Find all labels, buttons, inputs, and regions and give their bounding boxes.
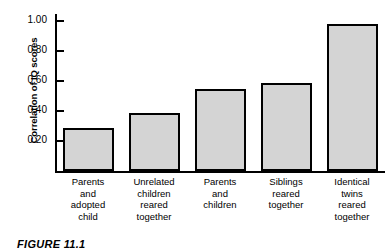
y-axis-tick-label: 0.80 [13,45,47,55]
category-label-line: Parents [187,176,253,188]
category-label-line: reared [319,199,385,211]
y-axis-tick [57,20,64,22]
figure-container: Correlation of IQ scores 0.200.400.600.8… [0,0,391,249]
category-label-line: together [253,199,319,211]
y-axis-tick [57,110,64,112]
bar-series [55,14,385,173]
bar [327,24,378,171]
y-axis-tick-label: 0.40 [13,105,47,115]
category-label-line: twins [319,188,385,200]
y-axis-tick [57,50,64,52]
y-axis-tick [57,140,64,142]
category-label-line: and [55,188,121,200]
x-axis-category-label: Parentsandadoptedchild [55,176,121,222]
plot-area [55,14,385,173]
category-label-line: Unrelated [121,176,187,188]
category-label-line: together [319,211,385,223]
y-axis-title: Correlation of IQ scores [28,11,39,171]
x-axis-category-label: Unrelatedchildrenrearedtogether [121,176,187,222]
category-label-line: Identical [319,176,385,188]
category-label-line: reared [121,199,187,211]
y-axis-tick [57,80,64,82]
x-axis-category-label: Siblingsrearedtogether [253,176,319,211]
bar [261,83,312,172]
category-label-line: adopted [55,199,121,211]
bar [129,113,180,172]
x-axis-category-label: Parentsandchildren [187,176,253,211]
category-label-line: Siblings [253,176,319,188]
category-label-line: children [187,199,253,211]
y-axis-tick-label: 1.00 [13,15,47,25]
x-axis-category-labels: ParentsandadoptedchildUnrelatedchildrenr… [55,176,385,236]
category-label-line: Parents [55,176,121,188]
category-label-line: children [121,188,187,200]
x-axis-category-label: Identicaltwinsrearedtogether [319,176,385,222]
category-label-line: together [121,211,187,223]
category-label-line: and [187,188,253,200]
y-axis-tick-label: 0.20 [13,135,47,145]
bar [195,89,246,172]
category-label-line: reared [253,188,319,200]
y-axis-tick-label: 0.60 [13,75,47,85]
bar [63,128,114,172]
category-label-line: child [55,211,121,223]
figure-caption: FIGURE 11.1 [17,238,86,249]
